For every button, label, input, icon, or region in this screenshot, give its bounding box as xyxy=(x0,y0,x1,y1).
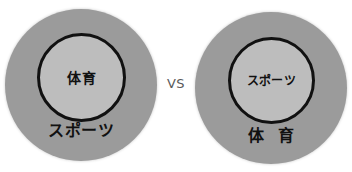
right-outer-set-circle: スポーツ 体 育 xyxy=(195,12,347,164)
right-outer-set-label: 体 育 xyxy=(195,128,347,144)
right-inner-set-circle: スポーツ xyxy=(228,37,315,124)
left-inner-set-circle: 体育 xyxy=(37,33,126,122)
right-inner-set-label: スポーツ xyxy=(247,75,296,87)
versus-separator-label: VS xyxy=(157,77,195,90)
left-inner-set-label: 体育 xyxy=(67,71,96,85)
left-outer-set-label: スポーツ xyxy=(5,123,157,139)
diagram-canvas: 体育 スポーツ VS スポーツ 体 育 xyxy=(0,0,352,172)
left-outer-set-circle: 体育 スポーツ xyxy=(5,9,157,161)
